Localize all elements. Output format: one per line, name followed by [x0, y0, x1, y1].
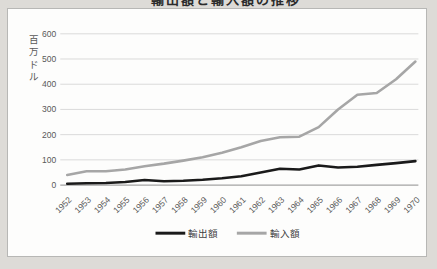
x-tick-label-1953: 1953 [72, 195, 93, 216]
y-tick-label-600: 600 [42, 29, 56, 39]
x-tick-label-1962: 1962 [247, 195, 268, 216]
x-tick-label-1954: 1954 [92, 195, 113, 216]
series-line-exports [67, 161, 415, 184]
clipped-chart-title-text: 輸出額と輸入額の推移 [151, 0, 301, 7]
x-tick-label-1955: 1955 [111, 195, 132, 216]
x-tick-label-1963: 1963 [266, 195, 287, 216]
x-tick-label-1959: 1959 [189, 195, 210, 216]
x-tick-label-1961: 1961 [227, 195, 248, 216]
x-tick-label-1966: 1966 [324, 195, 345, 216]
x-tick-label-1970: 1970 [401, 195, 422, 216]
x-tick-label-1960: 1960 [208, 195, 229, 216]
y-tick-label-300: 300 [42, 104, 56, 114]
y-axis-title-char: ド [29, 59, 39, 70]
x-tick-label-1952: 1952 [53, 195, 74, 216]
y-tick-label-500: 500 [42, 54, 56, 64]
x-tick-label-1967: 1967 [343, 195, 364, 216]
series-line-imports [67, 62, 415, 175]
clipped-chart-title: 輸出額と輸入額の推移 [0, 0, 437, 8]
x-tick-label-1968: 1968 [363, 195, 384, 216]
x-tick-label-1956: 1956 [130, 195, 151, 216]
line-chart: 0100200300400500600百万ドル19521953195419551… [8, 9, 426, 256]
y-tick-label-400: 400 [42, 79, 56, 89]
chart-frame: 0100200300400500600百万ドル19521953195419551… [7, 8, 427, 257]
legend-label-imports: 輸入額 [270, 228, 300, 239]
y-tick-label-100: 100 [42, 155, 56, 165]
y-axis-title-char: ル [29, 71, 39, 82]
legend-label-exports: 輸出額 [188, 228, 218, 239]
x-tick-label-1969: 1969 [382, 195, 403, 216]
x-tick-label-1957: 1957 [150, 195, 171, 216]
y-axis-title-char: 百 [29, 34, 39, 45]
photo-background: { "frame": { "outer_bg": "#dddbd7", "cha… [0, 0, 437, 269]
x-tick-label-1958: 1958 [169, 195, 190, 216]
y-tick-label-200: 200 [42, 130, 56, 140]
x-tick-label-1964: 1964 [285, 195, 306, 216]
y-axis-title-char: 万 [29, 46, 39, 57]
x-tick-label-1965: 1965 [305, 195, 326, 216]
y-tick-label-0: 0 [52, 180, 57, 190]
